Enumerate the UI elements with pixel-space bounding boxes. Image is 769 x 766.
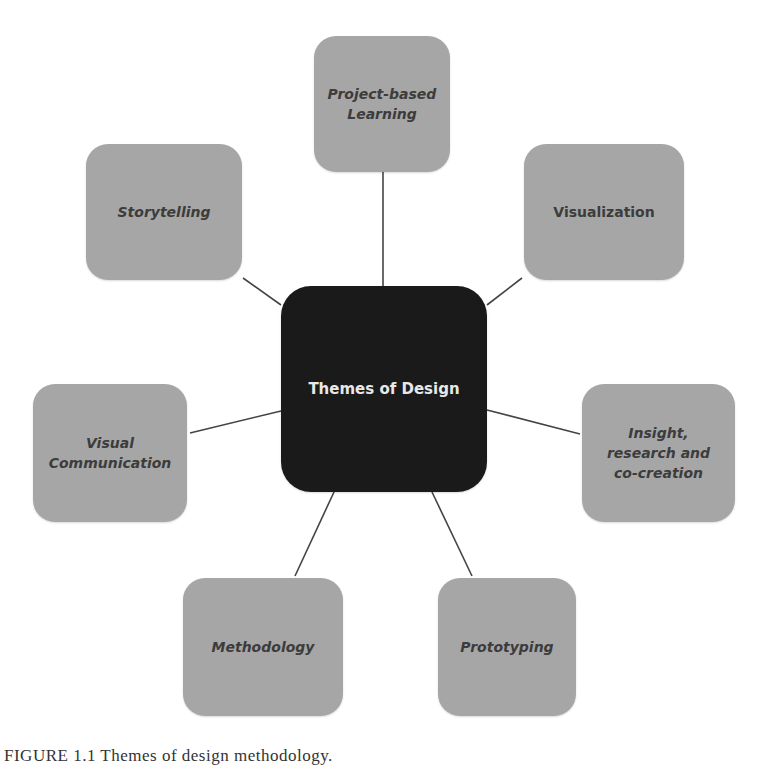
link-storytelling — [243, 278, 281, 305]
node-label: Storytelling — [110, 202, 219, 222]
node-visualization: Visualization — [524, 144, 684, 280]
node-prototyping: Prototyping — [438, 578, 576, 716]
node-label: Methodology — [204, 637, 323, 657]
link-insight — [487, 410, 580, 434]
node-label: Insight, research and co-creation — [582, 423, 735, 483]
center-node-themes-of-design: Themes of Design — [281, 286, 487, 492]
node-storytelling: Storytelling — [86, 144, 242, 280]
link-methodology — [295, 492, 334, 576]
node-insight-research-co-creation: Insight, research and co-creation — [582, 384, 735, 522]
node-methodology: Methodology — [183, 578, 343, 716]
node-label: Visual Communication — [33, 433, 187, 473]
link-visualization — [487, 278, 522, 305]
node-project-based-learning: Project-based Learning — [314, 36, 450, 172]
node-label: Visualization — [545, 202, 662, 222]
link-prototyping — [432, 492, 472, 576]
link-visual-communication — [190, 411, 281, 433]
center-node-label: Themes of Design — [300, 379, 467, 399]
node-label: Project-based Learning — [314, 84, 450, 124]
node-label: Prototyping — [452, 637, 561, 657]
node-visual-communication: Visual Communication — [33, 384, 187, 522]
figure-caption: FIGURE 1.1 Themes of design methodology. — [4, 746, 333, 766]
